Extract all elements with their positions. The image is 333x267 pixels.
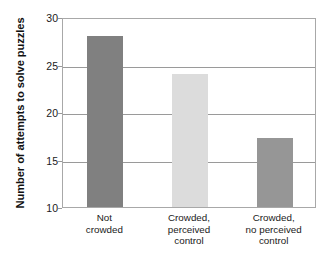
bar-crowded-perceived-control[interactable]: [172, 74, 208, 207]
x-label-line: crowded: [62, 224, 147, 236]
x-label-line: control: [147, 235, 232, 247]
bar-crowded-no-perceived-control[interactable]: [257, 138, 293, 207]
y-tick-label: 15: [34, 155, 58, 166]
x-label-line: control: [231, 235, 316, 247]
x-label-crowded-perceived-control: Crowded,perceivedcontrol: [147, 212, 232, 247]
x-label-crowded-no-perceived-control: Crowded,no perceivedcontrol: [231, 212, 316, 247]
plot-area: [62, 18, 316, 208]
x-label-line: Not: [62, 212, 147, 224]
x-label-not-crowded: Notcrowded: [62, 212, 147, 235]
y-tick-label: 25: [34, 60, 58, 71]
bar-not-crowded[interactable]: [87, 36, 123, 207]
x-label-line: Crowded,: [231, 212, 316, 224]
y-tick-label: 30: [34, 13, 58, 24]
y-tick-mark: [58, 208, 62, 209]
y-axis-title: Number of attempts to solve puzzles: [10, 7, 30, 219]
x-label-line: Crowded,: [147, 212, 232, 224]
y-tick-label: 10: [34, 203, 58, 214]
y-tick-label: 20: [34, 108, 58, 119]
bar-chart-figure: Number of attempts to solve puzzles 30 2…: [0, 0, 333, 267]
x-label-line: perceived: [147, 224, 232, 236]
y-axis-tick-labels: 30 25 20 15 10: [30, 18, 58, 208]
x-label-line: no perceived: [231, 224, 316, 236]
x-axis-category-labels: Notcrowded Crowded,perceivedcontrol Crow…: [62, 212, 316, 264]
